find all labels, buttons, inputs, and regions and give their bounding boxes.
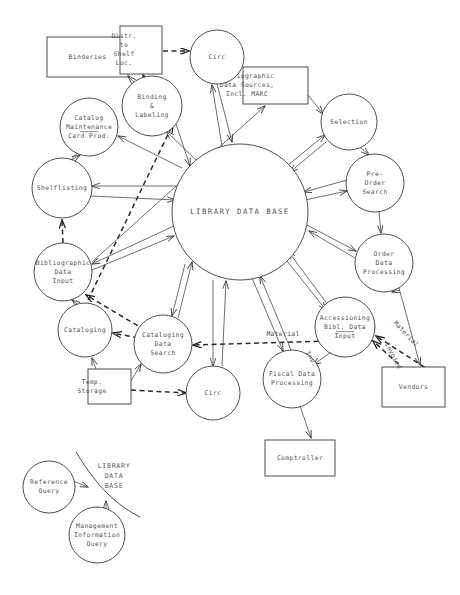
node-label-line: Incl. MARC xyxy=(226,90,268,98)
query-legend-group: ReferenceQueryManagementInformationQuery… xyxy=(23,452,140,563)
node-label-line: Comptroller xyxy=(277,454,323,462)
node-label-line: Maintenance xyxy=(66,123,112,131)
node-label-line: Processing xyxy=(363,268,405,276)
node-label-line: Labeling xyxy=(135,111,169,119)
node-selection[interactable]: Selection xyxy=(321,94,377,150)
central-node-group: LIBRARY DATA BASE xyxy=(172,144,308,280)
node-bibliographic-data-input[interactable]: BibliographicDataInput xyxy=(34,243,92,301)
edge-catsearch-to-cataloging xyxy=(113,333,138,338)
edge-temp-to-circ-bottom xyxy=(131,390,186,393)
node-label-line: Fiscal Data xyxy=(269,370,315,378)
node-label-line: Storage xyxy=(77,387,106,395)
node-label-line: Order xyxy=(365,179,386,187)
edge-selection-to-ldb xyxy=(290,142,326,172)
node-label-line: Binding xyxy=(137,93,166,101)
edge-preorder-to-orderproc xyxy=(379,212,381,233)
edge-ldb-to-selection xyxy=(288,135,325,165)
edge-fiscal-to-ldb xyxy=(260,276,291,350)
node-label-line: Data Sources, xyxy=(220,81,275,89)
node-label-line: LIBRARY xyxy=(98,462,131,470)
node-label-line: Data xyxy=(376,259,393,267)
central-node-label: LIBRARY DATA BASE xyxy=(190,207,289,216)
edge-fiscal-to-comptroller xyxy=(300,406,311,438)
node-label-line: Processing xyxy=(271,379,313,387)
node-label-line: Cataloging xyxy=(142,331,184,339)
node-management-information-query[interactable]: ManagementInformationQuery xyxy=(69,507,125,563)
node-label-line: to xyxy=(120,41,128,49)
node-circ-bottom[interactable]: Circ xyxy=(186,366,240,420)
edge-ldb-to-cataloging-search xyxy=(172,264,185,316)
node-pre-order-search[interactable]: Pre-OrderSearch xyxy=(346,154,404,212)
edge-label-invoice-right: Invoice xyxy=(383,341,404,370)
node-circ-top[interactable]: Circ xyxy=(190,30,244,84)
edge-temp-to-cataloging xyxy=(92,358,96,369)
node-label-line: Management xyxy=(76,522,118,530)
flow-diagram-canvas: BinderiesDistr.toShelfLoc.BibliographicD… xyxy=(0,0,460,595)
node-label-line: Accessioning xyxy=(320,314,370,322)
node-label-line: Cataloging xyxy=(64,326,106,334)
edge-accessioning-to-ldb xyxy=(288,251,328,305)
node-label-line: Search xyxy=(362,188,387,196)
node-comptroller[interactable]: Comptroller xyxy=(265,440,335,476)
node-label-line: Information xyxy=(74,531,120,539)
node-label-line: Bibliographic xyxy=(36,259,91,267)
edge-order-proc-to-ldb xyxy=(309,231,355,258)
node-label-line: BASE xyxy=(105,482,124,490)
node-label-line: DATA xyxy=(105,472,124,480)
node-label-line: Selection xyxy=(330,118,368,126)
edge-circ-bottom-to-ldb xyxy=(222,281,226,366)
edge-binding-to-ldb xyxy=(176,124,190,166)
node-label-line: Query xyxy=(39,487,60,495)
node-label-line: Reference xyxy=(30,478,68,486)
node-label-line: Card Prod. xyxy=(68,132,110,140)
edge-ldb-to-pre-order-search xyxy=(305,191,347,200)
node-cataloging-data-search[interactable]: CatalogingDataSearch xyxy=(134,315,192,373)
edge-ldb-to-binding xyxy=(166,131,196,160)
node-binding-labeling[interactable]: Binding&Labeling xyxy=(122,76,182,136)
node-label-line: Shelflisting xyxy=(37,184,87,192)
node-label-line: Distr. xyxy=(111,32,136,40)
edge-ldb-to-fiscal xyxy=(252,278,283,351)
node-label-line: Circ xyxy=(209,53,226,61)
edge-cataloging-search-to-ldb xyxy=(178,262,192,318)
node-label-line: Vendors xyxy=(399,383,428,391)
edge-bib-input-to-shelflisting xyxy=(62,220,63,243)
node-label-line: & xyxy=(150,102,154,110)
node-cataloging[interactable]: Cataloging xyxy=(58,303,112,357)
node-reference-query[interactable]: ReferenceQuery xyxy=(23,461,75,513)
node-label-line: Data xyxy=(55,268,72,276)
node-label-line: Pre- xyxy=(367,170,384,178)
node-distr-to-shelf-loc[interactable]: Distr.toShelfLoc. xyxy=(111,26,162,74)
edge-pre-order-search-to-ldb xyxy=(304,180,347,192)
diagram-svg: BinderiesDistr.toShelfLoc.BibliographicD… xyxy=(0,0,460,595)
node-shelflisting[interactable]: Shelflisting xyxy=(32,158,92,218)
node-vendors[interactable]: Vendors xyxy=(382,367,445,407)
edge-label-material-left: Material xyxy=(266,330,299,338)
node-library-data-base[interactable]: LIBRARY DATA BASE xyxy=(172,144,308,280)
edge-label-material-right: Material xyxy=(392,319,421,348)
node-label-line: Binderies xyxy=(69,53,107,61)
node-temp-storage[interactable]: Temp.Storage xyxy=(77,369,131,404)
edge-ldb-to-order-proc xyxy=(307,225,356,251)
node-label-line: Catalog xyxy=(74,114,103,122)
legend-database-label: LIBRARYDATABASE xyxy=(98,462,131,490)
node-label-line: Shelf xyxy=(114,50,135,58)
edge-ldb-to-circ-top xyxy=(212,85,222,146)
node-label-line: Input xyxy=(335,332,356,340)
node-order-data-processing[interactable]: OrderDataProcessing xyxy=(355,234,413,292)
node-label-line: Search xyxy=(150,349,175,357)
edge-bibsources-to-selection xyxy=(308,95,323,114)
node-label-line: Circ xyxy=(205,389,222,397)
node-accessioning-bibl-data-input[interactable]: AccessioningBibl. DataInput xyxy=(315,297,375,357)
node-catalog-maintenance[interactable]: CatalogMaintenanceCard Prod. xyxy=(60,98,118,156)
node-label-line: Input xyxy=(53,277,74,285)
node-label-line: Query xyxy=(87,540,108,548)
node-label-line: Loc. xyxy=(116,59,133,67)
node-label-line: Temp. xyxy=(82,378,103,386)
node-label-line: Data xyxy=(155,340,172,348)
edge-ldb-to-accessioning xyxy=(283,256,326,310)
node-label-line: Order xyxy=(374,250,395,258)
edge-ldb-to-catalog-maintenance xyxy=(118,136,182,168)
edge-selection-to-preorder xyxy=(360,147,369,155)
edge-temp-to-catsearch xyxy=(131,364,141,381)
